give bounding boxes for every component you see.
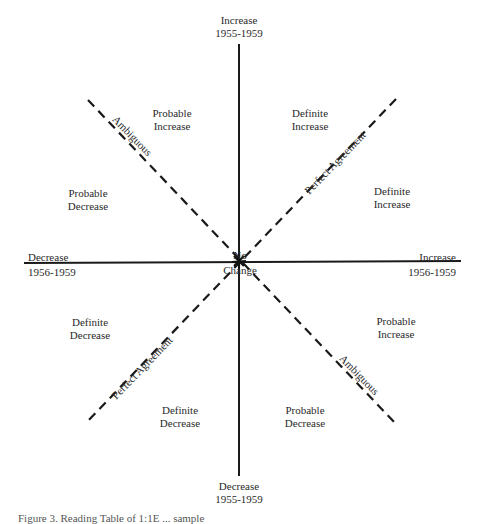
region-label-nnw: Probable Increase [142, 107, 202, 133]
figure-caption: Figure 3. Reading Table of 1:1E ... samp… [18, 512, 204, 524]
axis-label-bottom-line1: Decrease [204, 480, 274, 493]
region-label-wnw: Probable Decrease [58, 187, 118, 213]
region-label-nne: Definite Increase [280, 107, 340, 133]
center-label-line1: No [212, 248, 268, 263]
axis-label-top-line1: Increase [204, 14, 274, 27]
region-ese-line2: Increase [366, 328, 426, 341]
region-ese-line1: Probable [366, 315, 426, 328]
axis-label-left-line2: 1956-1959 [28, 265, 88, 280]
axis-label-bottom-line2: 1955-1959 [204, 493, 274, 506]
region-sse-line2: Decrease [275, 417, 335, 430]
axis-label-right-line2: 1956-1959 [396, 265, 456, 280]
axis-label-right-line1: Increase [396, 250, 456, 265]
region-wnw-line1: Probable [58, 187, 118, 200]
region-label-ene: Definite Increase [362, 185, 422, 211]
region-ene-line2: Increase [362, 198, 422, 211]
region-label-sse: Probable Decrease [275, 404, 335, 430]
axis-label-top-line2: 1955-1959 [204, 27, 274, 40]
axis-label-right: Increase 1956-1959 [396, 250, 456, 280]
axis-label-bottom: Decrease 1955-1959 [204, 480, 274, 506]
center-label-line2: Change [212, 263, 268, 278]
region-wsw-line1: Definite [60, 316, 120, 329]
region-ene-line1: Definite [362, 185, 422, 198]
axis-label-top: Increase 1955-1959 [204, 14, 274, 40]
region-nne-line2: Increase [280, 120, 340, 133]
region-label-ese: Probable Increase [366, 315, 426, 341]
region-nne-line1: Definite [280, 107, 340, 120]
region-wsw-line2: Decrease [60, 329, 120, 342]
axis-label-left: Decrease 1956-1959 [28, 250, 88, 280]
region-nnw-line1: Probable [142, 107, 202, 120]
region-ssw-line1: Definite [150, 404, 210, 417]
center-label: No Change [212, 248, 268, 278]
region-ssw-line2: Decrease [150, 417, 210, 430]
region-nnw-line2: Increase [142, 120, 202, 133]
region-label-wsw: Definite Decrease [60, 316, 120, 342]
region-wnw-line2: Decrease [58, 200, 118, 213]
region-label-ssw: Definite Decrease [150, 404, 210, 430]
region-sse-line1: Probable [275, 404, 335, 417]
axis-label-left-line1: Decrease [28, 250, 88, 265]
